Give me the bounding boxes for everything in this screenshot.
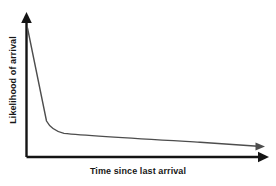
chart-container: Likelihood of arrival Time since last ar…: [0, 0, 276, 186]
y-axis-label: Likelihood of arrival: [9, 36, 18, 124]
x-axis-label: Time since last arrival: [0, 167, 276, 176]
y-axis-label-container: Likelihood of arrival: [0, 0, 26, 160]
arrow-right-small-icon: [256, 143, 266, 151]
decay-curve: [28, 28, 259, 146]
chart-plot-area: [0, 0, 276, 186]
arrow-right-icon: [258, 152, 269, 162]
